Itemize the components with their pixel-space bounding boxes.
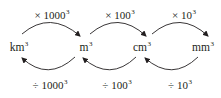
arrow-km-to-m xyxy=(22,22,80,36)
label-times-100-cubed: × 1003 xyxy=(105,10,134,21)
unit-mm-cubed: mm3 xyxy=(192,42,214,54)
factor-base: 1000 xyxy=(43,9,65,21)
unit-cm-cubed: cm3 xyxy=(133,42,151,54)
arrow-m-to-cm xyxy=(90,22,146,36)
factor-exponent: 3 xyxy=(192,8,196,16)
operator: ÷ xyxy=(168,79,174,91)
arrow-cm-to-mm xyxy=(152,22,208,36)
arrow-m-to-km xyxy=(22,57,75,70)
operator: ÷ xyxy=(33,79,39,91)
factor-base: 100 xyxy=(114,9,131,21)
factor-base: 100 xyxy=(111,79,128,91)
operator: ÷ xyxy=(102,79,108,91)
factor-base: 1000 xyxy=(41,79,63,91)
operator: × xyxy=(35,9,41,21)
unit-base: km xyxy=(10,41,25,53)
label-divide-1000-cubed: ÷ 10003 xyxy=(33,80,68,91)
unit-km-cubed: km3 xyxy=(10,42,29,54)
operator: × xyxy=(105,9,111,21)
unit-base: mm xyxy=(192,41,210,53)
unit-exponent: 3 xyxy=(210,40,214,48)
arrow-mm-to-cm xyxy=(145,57,198,70)
factor-base: 10 xyxy=(177,79,188,91)
operator: × xyxy=(172,9,178,21)
factor-base: 10 xyxy=(181,9,192,21)
label-divide-100-cubed: ÷ 1003 xyxy=(102,80,131,91)
unit-m-cubed: m3 xyxy=(80,42,93,54)
label-times-1000-cubed: × 10003 xyxy=(35,10,70,21)
factor-exponent: 3 xyxy=(66,8,70,16)
label-times-10-cubed: × 103 xyxy=(172,10,196,21)
unit-base: cm xyxy=(133,41,147,53)
unit-exponent: 3 xyxy=(89,40,93,48)
arrow-cm-to-m xyxy=(83,57,136,70)
label-divide-10-cubed: ÷ 103 xyxy=(168,80,192,91)
factor-exponent: 3 xyxy=(128,78,132,86)
unit-base: m xyxy=(80,41,89,53)
factor-exponent: 3 xyxy=(188,78,192,86)
factor-exponent: 3 xyxy=(64,78,68,86)
factor-exponent: 3 xyxy=(131,8,135,16)
unit-exponent: 3 xyxy=(25,40,29,48)
unit-exponent: 3 xyxy=(148,40,152,48)
